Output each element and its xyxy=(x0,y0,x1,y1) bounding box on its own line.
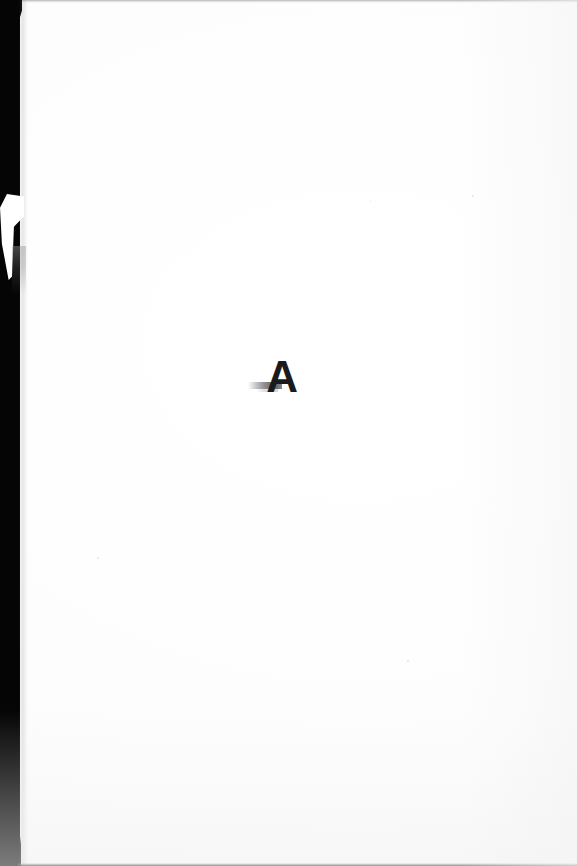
top-scan-edge-line xyxy=(20,0,577,3)
page-body-text xyxy=(40,40,537,820)
scanned-page: A xyxy=(0,0,577,866)
left-scan-edge-band xyxy=(0,0,22,866)
ink-mark: A xyxy=(246,356,308,400)
handwritten-letter-a: A xyxy=(264,356,300,400)
